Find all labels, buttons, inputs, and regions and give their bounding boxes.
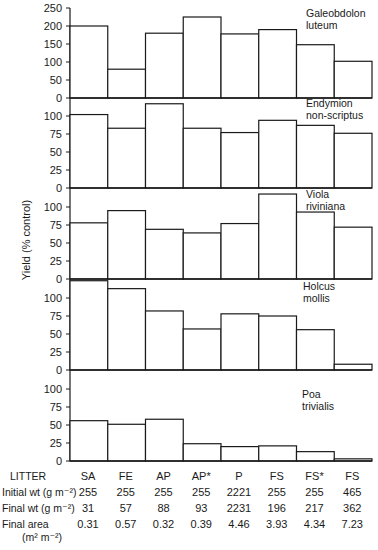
table-cell: 3.93 [258,518,296,530]
species-label: Galeobdolon [306,7,366,19]
column-header: FS [333,470,371,482]
bar-ap-star [183,17,221,98]
column-header: FS [258,470,296,482]
row-label: Initial wt (g m⁻²) [2,486,76,498]
table-cell: 57 [107,502,145,514]
bar-fs-star [297,212,335,279]
panel-viola: 0255075100Violariviniana [44,188,372,285]
y-tick-label: 50 [50,74,62,86]
bar-fe [108,424,146,461]
bar-ap-star [183,128,221,188]
row-label-unit: (m² m⁻²) [22,531,62,543]
y-tick-label: 75 [50,401,62,413]
species-label: riviniana [306,200,345,212]
table-cell: 255 [145,486,183,498]
y-tick-label: 50 [50,419,62,431]
bar-ap-star [183,233,221,279]
column-header: SA [69,470,107,482]
species-label: Endymion [306,97,353,109]
table-cell: 31 [69,502,107,514]
table-cell: 255 [69,486,107,498]
y-tick-label: 50 [50,328,62,340]
y-tick-label: 100 [44,201,62,213]
species-label: luteum [306,19,338,31]
bar-sa [70,421,108,461]
y-tick-label: 100 [44,383,62,395]
column-header: FS* [296,470,334,482]
table-cell: 255 [107,486,145,498]
y-tick-label: 150 [44,38,62,50]
bar-fs [334,227,372,279]
table-cell: 2231 [220,502,258,514]
y-tick-label: 0 [56,455,62,467]
y-tick-label: 50 [50,237,62,249]
row-label: Final wt (g m⁻²) [2,502,75,514]
table-cell: 465 [333,486,371,498]
table-cell: 0.39 [182,518,220,530]
species-label: Holcus [303,280,335,292]
y-tick-label: 100 [44,110,62,122]
species-label: non-scriptus [306,109,363,121]
table-cell: 2221 [220,486,258,498]
bar-fs [334,364,372,370]
bar-ap [146,311,184,370]
table-row-final-area: Final area (m² m⁻²) 0.310.570.320.394.46… [0,518,378,534]
y-axis-label: Yield (% control) [20,200,32,280]
bar-fs [334,133,372,188]
bar-fs [259,30,297,98]
species-label: Viola [306,188,329,200]
bar-ap [146,33,184,98]
bar-fs-star [297,45,335,98]
y-tick-label: 75 [50,128,62,140]
table-cell: 217 [296,502,334,514]
bar-ap [146,419,184,461]
table-header-row: LITTER SAFEAPAP*PFSFS*FS [0,470,378,486]
table-cell: 362 [333,502,371,514]
column-header: P [220,470,258,482]
bar-ap [146,104,184,188]
column-header: AP* [182,470,220,482]
y-tick-label: 0 [56,273,62,285]
bar-fs-star [297,452,335,461]
row-label: Final area [2,518,49,530]
column-header: FE [107,470,145,482]
y-tick-label: 25 [50,164,62,176]
bar-fe [108,128,146,188]
table-row-initial-wt: Initial wt (g m⁻²) 255255255255222125525… [0,486,378,502]
table-cell: 0.31 [69,518,107,530]
bar-fs [259,446,297,461]
table-cell: 255 [182,486,220,498]
table-cell: 4.34 [296,518,334,530]
panel-poa: 0255075100Poatrivialis [44,370,372,467]
bar-fe [108,211,146,279]
y-tick-label: 25 [50,346,62,358]
panel-galeobdolon: 050100150200250Galeobdolonluteum [44,2,372,104]
bar-sa [70,26,108,98]
y-tick-label: 50 [50,146,62,158]
y-tick-label: 250 [44,2,62,14]
table-cell: 255 [258,486,296,498]
y-tick-label: 0 [56,182,62,194]
table-row-final-wt: Final wt (g m⁻²) 315788932231196217362 [0,502,378,518]
table-cell: 93 [182,502,220,514]
species-label: mollis [303,292,330,304]
table-cell: 255 [296,486,334,498]
bar-fs [259,316,297,370]
y-tick-label: 100 [44,292,62,304]
table-cell: 4.46 [220,518,258,530]
bar-ap-star [183,329,221,370]
bar-p [221,224,259,279]
bar-p [221,447,259,461]
bar-ap-star [183,444,221,461]
bar-fs [259,120,297,188]
table-cell: 7.23 [333,518,371,530]
bar-fs-star [297,330,335,370]
y-tick-label: 25 [50,437,62,449]
bar-fs [259,194,297,279]
y-tick-label: 0 [56,92,62,104]
litter-header-label: LITTER [10,470,46,482]
bar-sa [70,223,108,279]
y-tick-label: 75 [50,219,62,231]
column-header: AP [145,470,183,482]
bar-p [221,133,259,188]
